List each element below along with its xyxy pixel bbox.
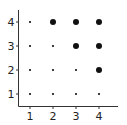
axes bbox=[19, 10, 119, 107]
data-point-small bbox=[75, 69, 77, 71]
x-tick-label: 3 bbox=[73, 110, 80, 123]
y-tick-label: 2 bbox=[8, 64, 15, 77]
y-tick-label: 3 bbox=[8, 40, 15, 53]
data-point-small bbox=[52, 93, 54, 95]
data-point-large bbox=[96, 67, 102, 73]
data-point-small bbox=[29, 45, 31, 47]
y-tick-labels: 1234 bbox=[8, 16, 19, 101]
dot-matrix-chart: 1234 1234 bbox=[0, 0, 127, 125]
data-point-large bbox=[73, 19, 79, 25]
data-point-small bbox=[29, 69, 31, 71]
y-tick-label: 1 bbox=[8, 88, 15, 101]
data-point-large bbox=[96, 19, 102, 25]
y-tick-label: 4 bbox=[8, 16, 15, 29]
data-point-large bbox=[50, 19, 56, 25]
data-point-small bbox=[52, 69, 54, 71]
x-tick-labels: 1234 bbox=[27, 107, 103, 124]
data-point-large bbox=[73, 43, 79, 49]
data-point-small bbox=[98, 93, 100, 95]
data-points bbox=[29, 19, 102, 95]
data-point-small bbox=[29, 93, 31, 95]
x-tick-label: 2 bbox=[50, 110, 57, 123]
data-point-small bbox=[29, 21, 31, 23]
data-point-small bbox=[52, 45, 54, 47]
data-point-large bbox=[96, 43, 102, 49]
x-tick-label: 1 bbox=[27, 110, 34, 123]
data-point-small bbox=[75, 93, 77, 95]
x-tick-label: 4 bbox=[96, 110, 103, 123]
